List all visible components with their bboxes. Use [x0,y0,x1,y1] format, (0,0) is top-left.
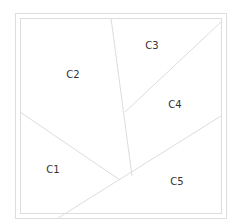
region-label-c3: C3 [145,41,158,51]
inner-frame [21,19,222,214]
region-label-c5: C5 [170,177,183,187]
divider-c2-c3-c4 [111,18,132,176]
region-label-c2: C2 [66,70,79,80]
divider-c1-c2 [20,112,120,180]
region-label-c4: C4 [168,100,181,110]
outer-frame [16,14,227,219]
diagram-canvas [0,0,238,223]
divider-c4-c5 [58,116,221,218]
region-label-c1: C1 [46,165,59,175]
